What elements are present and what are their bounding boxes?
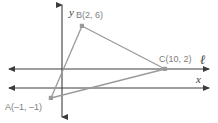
triangle-edge-bc [82, 26, 165, 69]
line-l-label: ℓ [200, 53, 205, 66]
vertex-label-b: B(2, 6) [76, 11, 103, 20]
vertex-label-a: A(–1, –1) [5, 103, 42, 112]
triangle-edge-ca [51, 69, 165, 98]
vertex-label-c: C(10, 2) [159, 55, 192, 64]
vertex-point-a [49, 96, 53, 100]
x-axis-label: x [196, 74, 201, 85]
vertex-point-c [163, 67, 167, 71]
geometry-diagram-canvas: B(2, 6) C(10, 2) A(–1, –1) y x ℓ [0, 0, 218, 123]
y-axis-label: y [69, 7, 74, 18]
triangle-edge-ab [51, 26, 82, 98]
vertex-point-b [80, 24, 84, 28]
